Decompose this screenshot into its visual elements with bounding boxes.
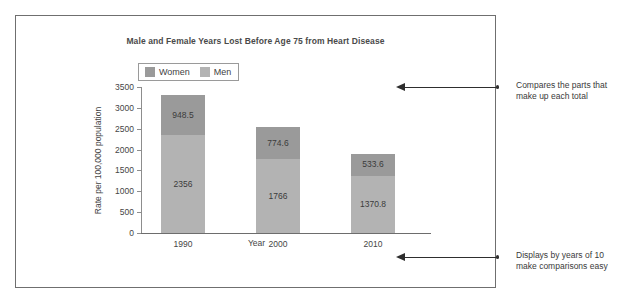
bar-group-2000[interactable]: 774.6 1766 2000 xyxy=(256,127,300,233)
annotation-bottom-text: Displays by years of 10 make comparisons… xyxy=(516,250,621,272)
chart-title: Male and Female Years Lost Before Age 75… xyxy=(16,36,495,46)
annotation-arrow-top xyxy=(396,82,506,93)
plot-area: 3500 3000 2500 2000 1500 1000 500 0 xyxy=(141,87,431,234)
bar-value-women-2010: 533.6 xyxy=(362,160,383,169)
bar-stack-2000: 774.6 1766 xyxy=(256,127,300,233)
bar-stack-2010: 533.6 1370.8 xyxy=(351,154,395,233)
bar-segment-men-1990[interactable]: 2356 xyxy=(161,135,205,233)
bar-value-women-2000: 774.6 xyxy=(267,139,288,148)
bar-segment-men-2000[interactable]: 1766 xyxy=(256,159,300,233)
legend-label-women: Women xyxy=(159,68,190,77)
legend-entry-men: Men xyxy=(200,67,232,77)
annotation-top-text: Compares the parts that make up each tot… xyxy=(516,80,621,102)
arrow-dot-icon xyxy=(496,85,499,88)
y-tick-label-0: 0 xyxy=(129,229,134,238)
y-tick-label-2000: 2000 xyxy=(115,145,134,154)
y-tick-label-3500: 3500 xyxy=(115,83,134,92)
legend-swatch-men xyxy=(200,67,210,77)
bar-segment-men-2010[interactable]: 1370.8 xyxy=(351,176,395,233)
y-axis-line xyxy=(141,87,142,234)
bar-value-men-2000: 1766 xyxy=(269,192,288,201)
bar-value-women-1990: 948.5 xyxy=(172,111,193,120)
x-axis-title: Year xyxy=(16,238,497,248)
y-tick-label-500: 500 xyxy=(120,208,134,217)
bar-segment-women-1990[interactable]: 948.5 xyxy=(161,95,205,135)
chart-legend: Women Men xyxy=(138,63,239,81)
bar-group-1990[interactable]: 948.5 2356 1990 xyxy=(161,95,205,233)
figure-frame: Male and Female Years Lost Before Age 75… xyxy=(15,15,496,288)
y-tick-label-1500: 1500 xyxy=(115,166,134,175)
legend-entry-women: Women xyxy=(145,67,190,77)
bar-stack-1990: 948.5 2356 xyxy=(161,95,205,233)
legend-label-men: Men xyxy=(214,68,232,77)
y-tick-label-3000: 3000 xyxy=(115,104,134,113)
bar-segment-women-2010[interactable]: 533.6 xyxy=(351,154,395,176)
y-tick-label-1000: 1000 xyxy=(115,187,134,196)
y-tick-label-2500: 2500 xyxy=(115,124,134,133)
bar-value-men-2010: 1370.8 xyxy=(360,200,386,209)
bar-value-men-1990: 2356 xyxy=(174,180,193,189)
arrow-dot-icon xyxy=(496,255,499,258)
bar-group-2010[interactable]: 533.6 1370.8 2010 xyxy=(351,154,395,233)
bar-segment-women-2000[interactable]: 774.6 xyxy=(256,127,300,159)
x-axis-line xyxy=(141,233,431,234)
legend-swatch-women xyxy=(145,67,155,77)
annotation-arrow-bottom xyxy=(396,252,506,263)
y-axis-title: Rate per 100,000 population xyxy=(92,87,104,234)
